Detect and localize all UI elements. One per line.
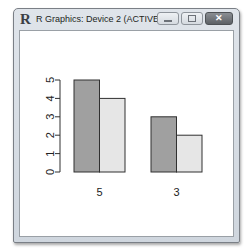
y-tick-label: 1 [44, 151, 56, 157]
bar-chart: 01234553 [0, 0, 252, 248]
x-category-label: 3 [173, 186, 179, 198]
y-tick-label: 4 [44, 95, 56, 101]
bar [151, 117, 177, 172]
bar [100, 98, 126, 172]
x-category-label: 5 [96, 186, 102, 198]
y-tick-label: 5 [44, 77, 56, 83]
y-tick-label: 3 [44, 114, 56, 120]
bar [177, 135, 203, 172]
bar [74, 80, 100, 172]
y-tick-label: 0 [44, 169, 56, 175]
y-tick-label: 2 [44, 132, 56, 138]
